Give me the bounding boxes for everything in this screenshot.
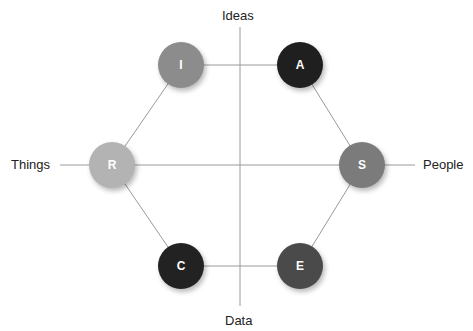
- node-label-c: C: [177, 259, 186, 273]
- node-label-e: E: [296, 259, 304, 273]
- node-label-a: A: [296, 58, 305, 72]
- node-label-r: R: [108, 158, 117, 172]
- diagram-lines: [0, 0, 473, 331]
- axis-label-things: Things: [11, 158, 50, 171]
- axis-label-ideas: Ideas: [222, 9, 254, 22]
- node-realistic: R: [89, 142, 135, 188]
- node-label-s: S: [358, 158, 366, 172]
- axis-label-people: People: [423, 158, 463, 171]
- node-social: S: [339, 142, 385, 188]
- node-artistic: A: [277, 42, 323, 88]
- node-enterprising: E: [277, 243, 323, 289]
- node-conventional: C: [158, 243, 204, 289]
- riasec-hexagon-diagram: Ideas Data Things People R I A S E C: [0, 0, 473, 331]
- node-label-i: I: [179, 58, 182, 72]
- node-investigative: I: [158, 42, 204, 88]
- axis-label-data: Data: [225, 314, 252, 327]
